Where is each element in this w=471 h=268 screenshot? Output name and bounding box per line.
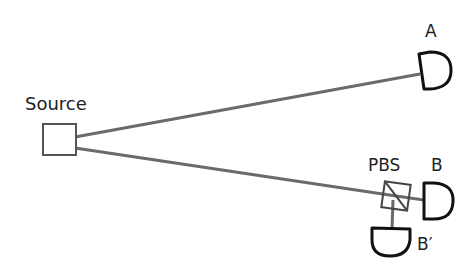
beam-to-a	[75, 74, 420, 137]
pbs-label: PBS	[368, 157, 400, 174]
detector-b-prime-label: B′	[417, 236, 433, 253]
beam-pbs-to-b-prime	[392, 200, 393, 230]
source-box	[43, 124, 76, 155]
setup-diagram	[0, 0, 471, 268]
beam-to-pbs	[75, 148, 396, 196]
detector-b-icon	[424, 183, 453, 219]
detector-b-label: B	[431, 157, 443, 174]
source-label: Source	[25, 95, 87, 113]
detector-b-prime-icon	[372, 228, 410, 256]
detector-a-label: A	[425, 23, 437, 40]
detector-a-icon	[419, 52, 451, 89]
